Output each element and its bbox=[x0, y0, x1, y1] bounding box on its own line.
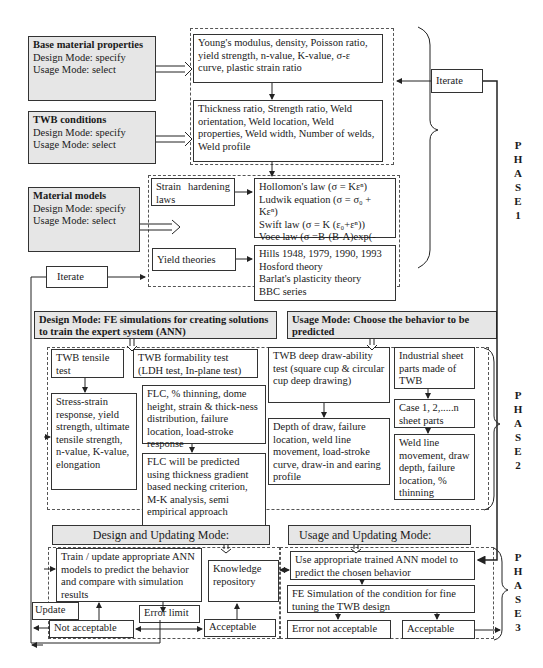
phase-3-label: P H A S E 3 bbox=[512, 550, 524, 634]
design-mode-header: Design Mode: FE simulations for creating… bbox=[34, 311, 277, 339]
yield-theories-list-box: Hills 1948, 1979, 1990, 1993 Hosford the… bbox=[254, 245, 396, 301]
twb-conditions-text: Thickness ratio, Strength ratio, Weld or… bbox=[198, 103, 374, 152]
yield-theory-bbc: BBC series bbox=[259, 286, 391, 299]
twb-conditions-usage-mode: Usage Mode: select bbox=[33, 139, 151, 152]
hardening-law-ludwik: Ludwik equation (σ = σ₀ + Kεⁿ) bbox=[259, 194, 391, 219]
iterate-right-label: Iterate bbox=[436, 75, 463, 86]
base-material-usage-mode: Usage Mode: select bbox=[33, 64, 151, 77]
twb-conditions-design-mode: Design Mode: specify bbox=[33, 127, 151, 140]
material-models-title: Material models bbox=[33, 190, 135, 203]
twb-conditions-box: TWB conditions Design Mode: specify Usag… bbox=[28, 111, 156, 164]
hardening-law-hollomon: Hollomon's law (σ = Kεⁿ) bbox=[259, 181, 391, 194]
design-updating-header: Design and Updating Mode: bbox=[52, 525, 270, 545]
deep-draw-test-box: TWB deep draw-ability test (square cup &… bbox=[268, 347, 390, 403]
flc-prediction-box: FLC will be predicted using thickness gr… bbox=[142, 453, 266, 526]
phase-2-label: P H A S E 2 bbox=[512, 388, 524, 472]
base-material-design-mode: Design Mode: specify bbox=[33, 52, 151, 65]
use-trained-ann-box: Use appropriate trained ANN model to pre… bbox=[290, 551, 475, 580]
yield-theories-label: Yield theories bbox=[157, 254, 216, 265]
material-models-usage-mode: Usage Mode: select bbox=[33, 215, 135, 228]
twb-conditions-detail-box: Thickness ratio, Strength ratio, Weld or… bbox=[193, 100, 383, 162]
yield-theory-hosford: Hosford theory bbox=[259, 261, 391, 274]
knowledge-repository-box: Knowledge repository bbox=[208, 560, 279, 602]
error-not-acceptable-box: Error not acceptable bbox=[287, 620, 391, 639]
base-properties-detail-box: Young's modulus, density, Poisson ratio,… bbox=[193, 34, 383, 83]
acceptable-left-box: Acceptable bbox=[204, 619, 276, 637]
material-models-design-mode: Design Mode: specify bbox=[33, 203, 135, 216]
industrial-outputs-box: Weld line movement, draw depth, failure … bbox=[394, 434, 475, 500]
acceptable-right-box: Acceptable bbox=[402, 620, 475, 639]
hardening-law-swift: Swift law (σ = K (ε₀+εⁿ)) bbox=[259, 219, 391, 232]
not-acceptable-box: Not acceptable bbox=[49, 620, 134, 638]
phase-1-label: P H A S E 1 bbox=[512, 138, 524, 222]
industrial-parts-box: Industrial sheet parts made of TWB bbox=[394, 347, 475, 389]
error-limit-box: Error limit bbox=[139, 605, 200, 623]
base-material-title: Base material properties bbox=[33, 39, 151, 52]
twb-conditions-title: TWB conditions bbox=[33, 114, 151, 127]
tensile-outputs-box: Stress-strain response, yield strength, … bbox=[51, 393, 137, 490]
cases-box: Case 1, 2,.....n sheet parts bbox=[394, 399, 475, 428]
deep-draw-outputs-box: Depth of draw, failure location, weld li… bbox=[268, 418, 390, 485]
tensile-test-box: TWB tensile test bbox=[51, 349, 124, 378]
base-material-properties-box: Base material properties Design Mode: sp… bbox=[28, 36, 156, 101]
base-properties-text: Young's modulus, density, Poisson ratio,… bbox=[198, 37, 368, 73]
train-ann-box: Train / update appropriate ANN models to… bbox=[56, 548, 202, 602]
update-box: Update bbox=[32, 602, 79, 620]
material-models-box: Material models Design Mode: specify Usa… bbox=[28, 187, 140, 252]
usage-updating-header: Usage and Updating Mode: bbox=[288, 525, 471, 545]
strain-hardening-label: Strain hardening laws bbox=[156, 181, 230, 205]
fe-simulation-box: FE Simulation of the condition for fine … bbox=[287, 585, 475, 613]
formability-outputs-box: FLC, % thinning, dome height, strain & t… bbox=[142, 385, 266, 444]
yield-theory-barlat: Barlat's plasticity theory bbox=[259, 273, 391, 286]
iterate-left-label: Iterate bbox=[57, 271, 84, 282]
yield-theories-box: Yield theories bbox=[152, 248, 236, 271]
iterate-right-box: Iterate bbox=[431, 69, 483, 93]
iterate-left-box: Iterate bbox=[46, 266, 108, 288]
usage-mode-header: Usage Mode: Choose the behavior to be pr… bbox=[287, 311, 497, 339]
strain-hardening-box: Strain hardening laws bbox=[151, 178, 235, 206]
formability-test-box: TWB formability test (LDH test, In-plane… bbox=[133, 349, 258, 378]
hardening-laws-box: Hollomon's law (σ = Kεⁿ) Ludwik equation… bbox=[254, 178, 396, 238]
yield-theory-hills: Hills 1948, 1979, 1990, 1993 bbox=[259, 248, 391, 261]
